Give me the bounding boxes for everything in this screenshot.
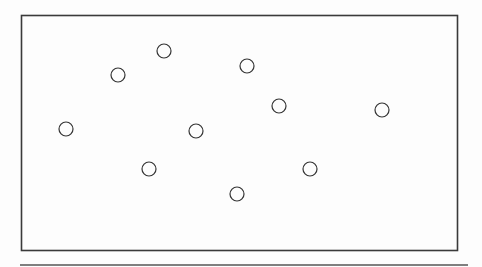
bounding-rectangle bbox=[22, 16, 458, 251]
circle-point-c5 bbox=[375, 103, 389, 117]
circle-point-c10 bbox=[230, 187, 244, 201]
circle-point-c7 bbox=[189, 124, 203, 138]
circle-point-c4 bbox=[272, 99, 286, 113]
circle-point-c6 bbox=[59, 122, 73, 136]
circle-points-group bbox=[59, 44, 389, 201]
circle-point-c8 bbox=[142, 162, 156, 176]
circle-point-c9 bbox=[303, 162, 317, 176]
diagram-canvas bbox=[0, 0, 482, 267]
circle-point-c2 bbox=[240, 59, 254, 73]
circle-point-c1 bbox=[157, 44, 171, 58]
scatter-diagram bbox=[0, 0, 482, 267]
circle-point-c3 bbox=[111, 68, 125, 82]
